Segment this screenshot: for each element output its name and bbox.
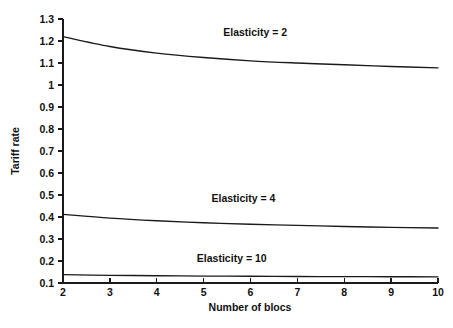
- y-tick-label: 0.6: [39, 167, 54, 179]
- y-tick-label: 1.1: [39, 57, 54, 69]
- y-tick-label: 0.3: [39, 233, 54, 245]
- x-axis-title: Number of blocs: [209, 301, 292, 313]
- x-tick-label: 7: [294, 286, 300, 298]
- chart-background: [0, 0, 453, 328]
- y-tick-label: 1.3: [39, 13, 54, 25]
- y-tick-label: 1: [48, 79, 54, 91]
- series-label-1: Elasticity = 2: [223, 26, 287, 38]
- y-tick-label: 0.1: [39, 277, 54, 289]
- x-tick-label: 9: [388, 286, 394, 298]
- y-tick-label: 0.9: [39, 101, 54, 113]
- y-tick-label: 0.2: [39, 255, 54, 267]
- y-tick-label: 0.7: [39, 145, 54, 157]
- x-tick-label: 5: [201, 286, 207, 298]
- tariff-rate-line-chart: 0.10.20.30.40.50.60.70.80.911.11.21.3 23…: [0, 0, 453, 328]
- series-label-3: Elasticity = 10: [197, 252, 267, 264]
- y-axis-title: Tariff rate: [9, 127, 21, 175]
- series-label-2: Elasticity = 4: [212, 192, 276, 204]
- x-tick-label: 8: [341, 286, 347, 298]
- y-tick-label: 0.5: [39, 189, 54, 201]
- x-tick-label: 10: [432, 286, 444, 298]
- x-tick-label: 3: [107, 286, 113, 298]
- x-tick-label: 2: [60, 286, 66, 298]
- x-tick-label: 4: [154, 286, 160, 298]
- y-tick-label: 0.8: [39, 123, 54, 135]
- y-tick-label: 0.4: [39, 211, 54, 223]
- y-tick-label: 1.2: [39, 35, 54, 47]
- x-tick-label: 6: [248, 286, 254, 298]
